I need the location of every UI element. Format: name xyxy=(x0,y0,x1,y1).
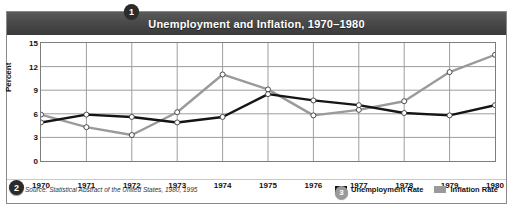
plot-area-wrapper: Percent 03691215 19701971197219731974197… xyxy=(18,42,496,174)
data-point-marker xyxy=(84,125,89,130)
legend-label: Unemployment Rate xyxy=(351,185,424,194)
y-axis-tick-label: 0 xyxy=(20,157,38,166)
y-axis-tick-label: 12 xyxy=(20,62,38,71)
chart-legend: Unemployment RateInflation Rate xyxy=(335,185,498,194)
data-point-marker xyxy=(311,113,316,118)
chart-svg xyxy=(41,43,495,161)
data-point-marker xyxy=(84,112,89,117)
x-axis-tick-label: 1976 xyxy=(304,181,322,190)
x-axis-tick-label: 1974 xyxy=(214,181,232,190)
legend-item[interactable]: Inflation Rate xyxy=(434,185,498,194)
plot-canvas xyxy=(40,42,496,162)
y-axis-tick-label: 15 xyxy=(20,39,38,48)
data-point-marker xyxy=(41,112,44,117)
data-point-marker xyxy=(447,70,452,75)
data-point-marker xyxy=(402,111,407,116)
y-axis-tick-label: 3 xyxy=(20,133,38,142)
chart-title-bar: Unemployment and Inflation, 1970–1980 xyxy=(7,12,506,35)
y-axis-tick-label: 9 xyxy=(20,86,38,95)
legend-item[interactable]: Unemployment Rate xyxy=(335,185,424,194)
data-point-marker xyxy=(493,52,496,57)
callout-marker-1: 1 xyxy=(124,4,139,19)
data-point-marker xyxy=(175,120,180,125)
data-point-marker xyxy=(447,113,452,118)
data-point-marker xyxy=(493,103,496,108)
chart-figure: Unemployment and Inflation, 1970–1980 1 … xyxy=(0,0,514,212)
legend-label: Inflation Rate xyxy=(450,185,498,194)
data-point-marker xyxy=(220,72,225,77)
data-point-marker xyxy=(266,87,271,92)
data-point-marker xyxy=(402,99,407,104)
page-title: Unemployment and Inflation, 1970–1980 xyxy=(148,18,364,30)
data-point-marker xyxy=(266,92,271,97)
footer-divider xyxy=(7,179,506,180)
callout-marker-2: 2 xyxy=(9,180,24,195)
data-point-marker xyxy=(41,120,44,125)
callout-marker-3: 3 xyxy=(335,186,348,199)
data-point-marker xyxy=(356,107,361,112)
source-note: Source: Statistical Abstract of the Unit… xyxy=(25,186,197,193)
data-point-marker xyxy=(129,133,134,138)
data-point-marker xyxy=(175,110,180,115)
x-axis-tick-label: 1975 xyxy=(259,181,277,190)
data-point-marker xyxy=(129,114,134,119)
data-point-marker xyxy=(220,114,225,119)
y-axis-tick-label: 6 xyxy=(20,109,38,118)
data-point-marker xyxy=(356,103,361,108)
legend-swatch-icon xyxy=(434,186,446,193)
y-axis-label: Percent xyxy=(4,63,13,92)
data-point-marker xyxy=(311,98,316,103)
